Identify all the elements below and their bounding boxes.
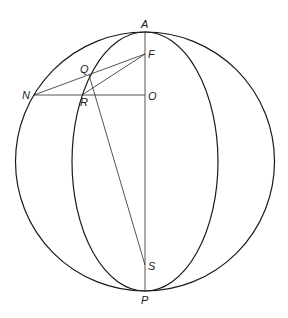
- segment-n-f: [34, 54, 145, 95]
- label-o: O: [148, 90, 157, 102]
- label-a: A: [140, 18, 148, 30]
- segment-q-s: [89, 75, 145, 265]
- label-s: S: [148, 260, 156, 272]
- label-n: N: [22, 89, 30, 101]
- sphere-projection-diagram: A F Q N O R S P: [0, 0, 288, 318]
- label-r: R: [80, 96, 88, 108]
- label-q: Q: [80, 63, 89, 75]
- label-f: F: [148, 48, 156, 60]
- label-p: P: [141, 294, 149, 306]
